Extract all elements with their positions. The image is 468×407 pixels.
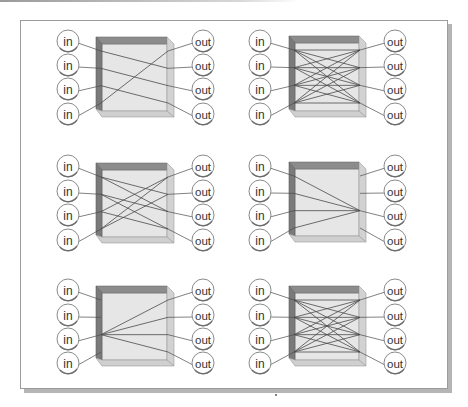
output-port-4: out	[192, 229, 214, 251]
input-port-3: in	[57, 78, 79, 100]
input-label: in	[255, 309, 264, 323]
output-port-4: out	[192, 352, 214, 374]
input-label: in	[63, 309, 72, 323]
input-port-4: in	[249, 229, 271, 251]
output-port-1: out	[192, 30, 214, 52]
output-port-4: out	[384, 229, 406, 251]
output-port-3: out	[384, 204, 406, 226]
input-port-4: in	[57, 352, 79, 374]
switch-panel-3: inoutinoutinoutinout	[57, 155, 214, 251]
input-label: in	[63, 108, 72, 122]
output-port-2: out	[192, 54, 214, 76]
input-label: in	[255, 284, 264, 298]
input-port-1: in	[249, 155, 271, 177]
input-port-2: in	[57, 180, 79, 202]
input-label: in	[63, 357, 72, 371]
output-port-1: out	[384, 155, 406, 177]
input-port-3: in	[249, 78, 271, 100]
input-label: in	[255, 234, 264, 248]
input-label: in	[255, 357, 264, 371]
output-label: out	[195, 358, 212, 370]
input-port-1: in	[57, 279, 79, 301]
output-label: out	[195, 310, 212, 322]
output-port-2: out	[384, 180, 406, 202]
output-label: out	[387, 84, 404, 96]
input-label: in	[63, 284, 72, 298]
input-port-3: in	[249, 328, 271, 350]
input-label: in	[63, 35, 72, 49]
input-port-4: in	[57, 103, 79, 125]
output-port-4: out	[192, 103, 214, 125]
input-label: in	[255, 333, 264, 347]
switch-panel-2: inoutinoutinoutinout	[249, 30, 406, 125]
input-port-2: in	[249, 304, 271, 326]
output-port-3: out	[384, 328, 406, 350]
input-label: in	[63, 209, 72, 223]
output-label: out	[387, 109, 404, 121]
input-label: in	[255, 160, 264, 174]
output-port-3: out	[384, 78, 406, 100]
input-label: in	[63, 160, 72, 174]
input-port-1: in	[249, 30, 271, 52]
output-port-1: out	[192, 279, 214, 301]
input-label: in	[255, 108, 264, 122]
output-port-2: out	[384, 54, 406, 76]
switch-diagrams: inoutinoutinoutinoutinoutinoutinoutinout…	[0, 0, 468, 407]
input-port-4: in	[249, 352, 271, 374]
output-port-3: out	[192, 204, 214, 226]
switch-panel-5: inoutinoutinoutinout	[57, 279, 214, 374]
output-port-1: out	[192, 155, 214, 177]
input-label: in	[255, 35, 264, 49]
output-label: out	[387, 310, 404, 322]
stray-dot	[275, 394, 277, 396]
input-label: in	[63, 59, 72, 73]
output-label: out	[387, 235, 404, 247]
output-label: out	[195, 60, 212, 72]
input-port-2: in	[249, 180, 271, 202]
output-label: out	[195, 36, 212, 48]
input-port-1: in	[57, 30, 79, 52]
output-port-4: out	[384, 352, 406, 374]
output-label: out	[387, 210, 404, 222]
input-port-4: in	[249, 103, 271, 125]
output-port-2: out	[192, 304, 214, 326]
output-label: out	[195, 334, 212, 346]
output-label: out	[195, 285, 212, 297]
output-port-1: out	[384, 279, 406, 301]
input-label: in	[63, 234, 72, 248]
output-label: out	[195, 84, 212, 96]
output-label: out	[195, 210, 212, 222]
output-label: out	[387, 161, 404, 173]
output-port-3: out	[192, 328, 214, 350]
output-port-2: out	[192, 180, 214, 202]
input-port-2: in	[57, 54, 79, 76]
switch-panel-6: inoutinoutinoutinout	[249, 279, 406, 374]
output-port-2: out	[384, 304, 406, 326]
input-port-3: in	[57, 204, 79, 226]
output-port-1: out	[384, 30, 406, 52]
output-label: out	[387, 334, 404, 346]
output-label: out	[387, 358, 404, 370]
switch-panel-1: inoutinoutinoutinout	[57, 30, 214, 125]
output-label: out	[195, 186, 212, 198]
input-port-3: in	[57, 328, 79, 350]
input-port-2: in	[57, 304, 79, 326]
input-label: in	[255, 209, 264, 223]
output-port-4: out	[384, 103, 406, 125]
input-port-1: in	[249, 279, 271, 301]
input-port-1: in	[57, 155, 79, 177]
input-label: in	[255, 185, 264, 199]
output-label: out	[195, 235, 212, 247]
output-label: out	[387, 60, 404, 72]
output-label: out	[387, 36, 404, 48]
switch-panel-4: inoutinoutinoutinout	[249, 155, 406, 251]
input-label: in	[255, 59, 264, 73]
output-label: out	[387, 186, 404, 198]
input-label: in	[63, 333, 72, 347]
output-label: out	[195, 161, 212, 173]
input-label: in	[255, 83, 264, 97]
output-label: out	[387, 285, 404, 297]
input-label: in	[63, 83, 72, 97]
input-port-4: in	[57, 229, 79, 251]
output-label: out	[195, 109, 212, 121]
